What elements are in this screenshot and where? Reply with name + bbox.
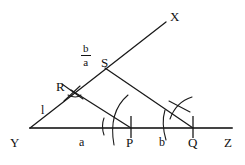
segment-label-base-a: a <box>79 136 84 148</box>
geometry-canvas <box>0 0 245 165</box>
point-label-r: R <box>56 80 65 93</box>
arc-Q-upper <box>170 97 192 119</box>
fraction-denominator: a <box>81 57 91 69</box>
point-label-q: Q <box>188 136 197 149</box>
arc-Q-cross <box>169 101 190 112</box>
geometry-figure: YZXRSPQ lab b a <box>0 0 245 165</box>
arc-P-small <box>103 118 105 135</box>
segment-label-base-b: b <box>159 136 165 148</box>
point-label-s: S <box>101 56 108 69</box>
fraction-numerator: b <box>81 43 91 55</box>
point-label-p: P <box>126 136 133 149</box>
point-label-x: X <box>170 10 179 23</box>
segment-label-unit-l: l <box>41 104 44 116</box>
line-segment-sq <box>105 68 193 128</box>
point-label-z: Z <box>224 136 232 149</box>
line-ray-yx <box>30 22 166 128</box>
fraction-b-over-a: b a <box>81 43 91 68</box>
point-label-y: Y <box>10 136 19 149</box>
